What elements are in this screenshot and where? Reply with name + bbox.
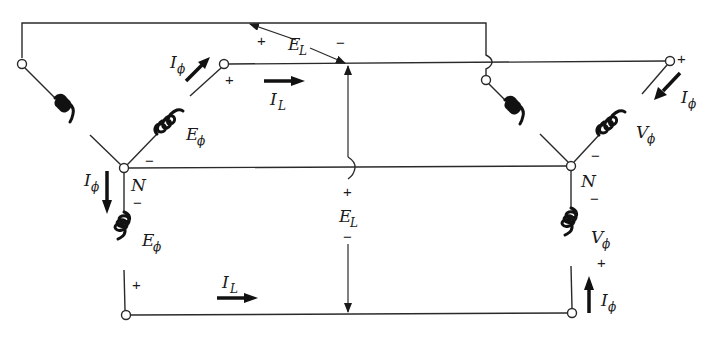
line-voltage-mid-indicator: + E L − [338,66,358,312]
load-terminal-bottom [568,309,577,318]
el-sub: L [298,44,307,58]
minus-sign: − [590,190,599,207]
load-terminal-top-left [482,76,491,85]
plus-sign: + [597,254,606,271]
arrow-gen-phase-current-upper [186,64,203,81]
load-terminal-top-right [666,57,675,66]
plus-sign: + [343,183,352,200]
iphi-label: I [600,290,608,310]
iphi-label: I [169,52,177,72]
gen-terminal-top-left [18,60,27,69]
vphi-sub: ϕ [647,132,655,146]
labels: I ϕ + E ϕ − I L I ϕ N − E ϕ + I L + I ϕ … [83,50,696,314]
plus-sign: + [132,276,141,293]
il-label: I [221,272,229,292]
gen-coil-c [115,212,130,239]
neutral-label: N [580,171,597,191]
minus-sign: − [591,147,600,164]
neutral-label: N [130,175,147,195]
il-label: I [269,89,277,109]
iphi-sub: ϕ [177,62,185,76]
gen-terminal-top-right [220,60,229,69]
neutral-wire [129,166,566,168]
y-y-circuit-diagram: + E L − + E L − [0,0,707,337]
iphi-sub: ϕ [608,300,616,314]
il-sub: L [277,99,286,113]
bottom-line-wire [131,313,567,315]
il-sub: L [229,282,238,296]
minus-sign: − [145,152,154,169]
iphi-sub: ϕ [91,180,99,194]
line-voltage-top-indicator: + E L − [250,24,345,63]
vphi-sub: ϕ [602,237,610,251]
gen-terminal-bottom [122,311,131,320]
iphi-label: I [680,87,688,107]
load-coil-c [562,208,577,235]
minus-sign: − [336,34,345,51]
iphi-sub: ϕ [688,97,696,111]
load-neutral-node [567,162,576,171]
minus-sign: − [343,228,352,245]
generator-y [25,68,221,310]
plus-sign: + [257,32,266,49]
ephi-sub: ϕ [197,134,205,148]
top-line-wire [22,23,492,75]
ephi-sub: ϕ [153,240,161,254]
minus-sign: − [133,194,142,211]
load-coil-b [597,111,625,135]
iphi-label: I [83,170,91,190]
arrow-load-phase-current-upper [663,73,680,91]
load-coil-a [505,98,523,124]
gen-coil-b [155,110,183,134]
plus-sign: + [677,50,686,67]
gen-neutral-node [120,164,129,173]
middle-line-wire [229,61,665,64]
plus-sign: + [225,71,234,88]
load-y [489,65,667,308]
gen-coil-a [55,96,73,122]
